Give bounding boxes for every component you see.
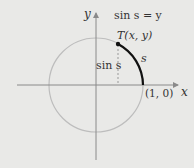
vertical-label: sin s <box>96 59 122 72</box>
point-t <box>116 42 120 46</box>
arc-label: s <box>141 52 147 65</box>
point-label: T(x, y) <box>117 29 152 42</box>
x-axis-label: x <box>181 85 188 99</box>
arc-s <box>118 44 143 85</box>
equation-label: sin s = y <box>114 9 163 22</box>
y-axis-label: y <box>83 7 91 21</box>
point-1-0-label: (1, 0) <box>145 87 173 99</box>
unit-circle-diagram: y x sin s = y T(x, y) s sin s (1, 0) <box>0 0 194 168</box>
